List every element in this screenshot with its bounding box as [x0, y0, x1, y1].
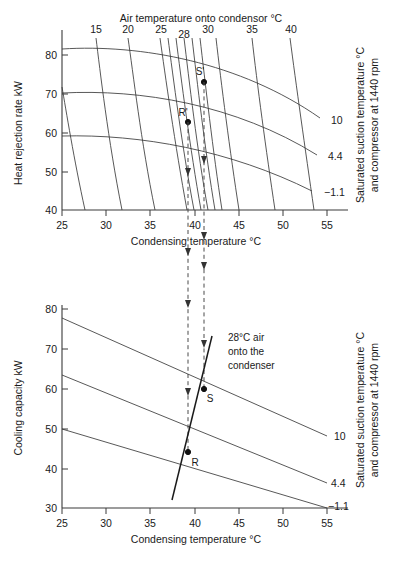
top-right-label-line2: and compressor at 1440 rpm: [368, 58, 380, 192]
bottom-annotation-line2: onto the: [228, 346, 265, 357]
top-y-ticks: [62, 55, 68, 172]
arrow-down-left-2: [185, 248, 191, 256]
top-air-label-15: 15: [90, 23, 102, 35]
top-air-label-25: 25: [155, 23, 167, 35]
top-xaxis-title: Condensing temperature °C: [131, 235, 262, 247]
bottom-y-ticks: [62, 309, 68, 469]
bottom-xtick-45: 45: [233, 517, 245, 529]
bottom-right-label-line1: Saturated suction temperature °C: [354, 332, 366, 488]
top-ytick-80: 80: [45, 49, 57, 61]
arrow-down-left-1: [185, 168, 191, 176]
top-chart: Air temperature onto condensor °C 80 70 …: [12, 12, 348, 247]
top-xtick-25: 25: [56, 219, 68, 231]
top-air-label-28: 28: [178, 28, 190, 40]
bottom-xtick-40: 40: [189, 517, 201, 529]
bottom-point-s-marker: [201, 386, 206, 391]
bottom-xtick-25: 25: [56, 517, 68, 529]
top-xtick-45: 45: [233, 219, 245, 231]
top-xtick-40: 40: [189, 219, 201, 231]
top-xtick-55: 55: [321, 219, 333, 231]
bottom-chart: 80 70 60 50 40 30 25 30 35 40 45 50 55 C…: [12, 303, 349, 545]
arrow-down-left-4: [185, 388, 191, 396]
arrow-down-left-3: [185, 300, 191, 308]
top-ytick-50: 50: [45, 166, 57, 178]
top-air-label-35: 35: [246, 23, 258, 35]
top-x-ticks: [62, 210, 327, 216]
bottom-suction-label-10: 10: [334, 430, 346, 442]
bottom-xtick-35: 35: [144, 517, 156, 529]
top-suction-label-10: 10: [331, 114, 343, 126]
refrigeration-performance-figure: Air temperature onto condensor °C 80 70 …: [0, 0, 406, 564]
bottom-suction-label-m1-1: −1.1: [328, 500, 349, 512]
bottom-xtick-50: 50: [277, 517, 289, 529]
bottom-suction-lines: [62, 318, 327, 508]
top-point-r-prime-label: R': [178, 107, 187, 118]
top-air-label-40: 40: [285, 23, 297, 35]
bottom-right-label-line2: and compressor at 1440 rpm: [368, 343, 380, 477]
top-yaxis-title: Heat rejection rate kW: [12, 81, 24, 185]
bottom-point-r-label: R: [191, 457, 198, 468]
top-air-label-20: 20: [122, 23, 134, 35]
bottom-point-r-marker: [185, 449, 190, 454]
bottom-ytick-40: 40: [45, 463, 57, 475]
bottom-point-s-label: S: [207, 393, 214, 404]
arrow-down-right-3: [201, 262, 207, 270]
top-right-label-line1: Saturated suction temperature °C: [354, 47, 366, 203]
figure-root: Air temperature onto condensor °C 80 70 …: [0, 0, 406, 564]
top-xtick-35: 35: [144, 219, 156, 231]
bottom-ytick-50: 50: [45, 423, 57, 435]
top-suction-label-4-4: 4.4: [328, 150, 343, 162]
top-ytick-40: 40: [45, 204, 57, 216]
bottom-annotation-line1: 28°C air: [228, 332, 265, 343]
right-side-labels: Saturated suction temperature °C and com…: [354, 47, 380, 488]
bottom-28c-air-line: [172, 336, 212, 500]
bottom-yaxis-title: Cooling capacity kW: [12, 360, 24, 455]
bottom-ytick-70: 70: [45, 343, 57, 355]
bottom-suction-label-4-4: 4.4: [331, 477, 346, 489]
bottom-xtick-30: 30: [100, 517, 112, 529]
bottom-xaxis-title: Condensing temperature °C: [131, 533, 262, 545]
top-xtick-50: 50: [277, 219, 289, 231]
bottom-xtick-55: 55: [321, 517, 333, 529]
top-ytick-70: 70: [45, 88, 57, 100]
top-xtick-30: 30: [100, 219, 112, 231]
bottom-ytick-60: 60: [45, 383, 57, 395]
top-suction-label-m1-1: −1.1: [324, 186, 345, 198]
bottom-ytick-30: 30: [45, 502, 57, 514]
top-air-label-30: 30: [202, 23, 214, 35]
bottom-ytick-80: 80: [45, 303, 57, 315]
top-suction-curves: [62, 48, 320, 191]
arrow-down-right-4: [201, 340, 207, 348]
arrow-down-right-1: [201, 156, 207, 164]
bottom-annotation-line3: condenser: [228, 360, 275, 371]
top-ytick-60: 60: [45, 127, 57, 139]
projection-lines: [185, 82, 207, 452]
bottom-x-ticks: [62, 508, 327, 514]
top-point-s-prime-label: S': [196, 66, 205, 77]
